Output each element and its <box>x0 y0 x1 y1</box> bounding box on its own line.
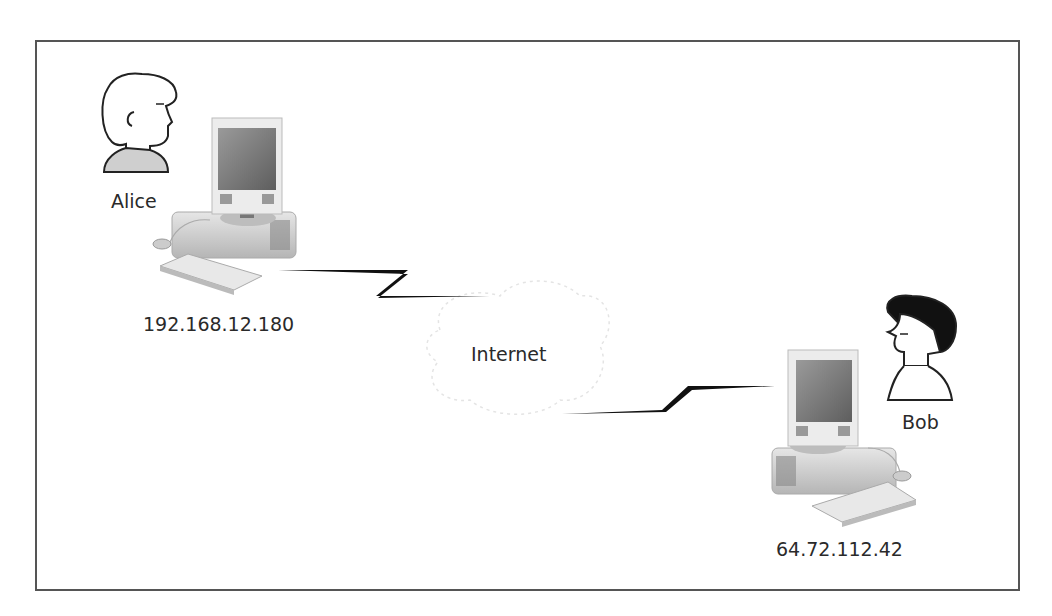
alice-person-icon <box>102 74 176 172</box>
bob-computer-icon <box>772 350 916 527</box>
diagram-canvas <box>0 0 1052 616</box>
internet-bob-link <box>562 386 775 414</box>
bob-label: Bob <box>902 411 939 433</box>
alice-internet-link <box>278 270 490 298</box>
bob-ip-label: 64.72.112.42 <box>776 538 903 560</box>
alice-computer-icon <box>153 118 296 295</box>
bob-person-icon <box>887 296 956 400</box>
alice-ip-label: 192.168.12.180 <box>143 313 294 335</box>
alice-label: Alice <box>111 190 157 212</box>
internet-label: Internet <box>471 343 546 365</box>
